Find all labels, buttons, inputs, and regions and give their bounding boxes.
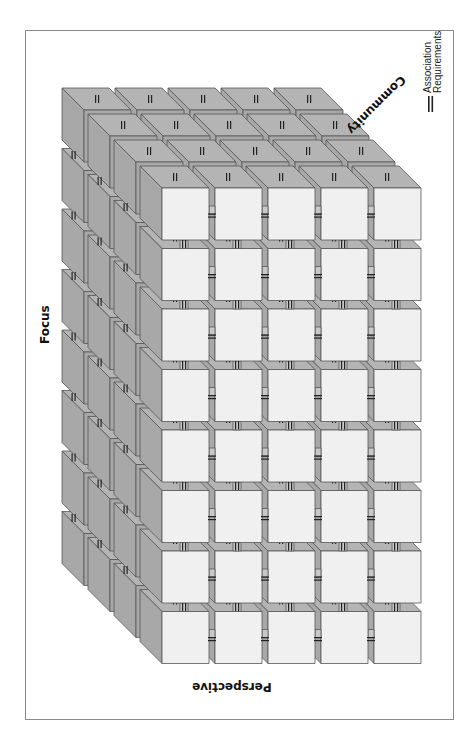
- connector-vertical: [233, 240, 241, 249]
- connector-horizontal: [315, 327, 321, 335]
- cube-front-face: [268, 249, 315, 301]
- cube-front-face: [374, 370, 421, 422]
- connector-vertical: [339, 361, 347, 370]
- connector-horizontal: [368, 630, 374, 638]
- connector-horizontal: [262, 206, 268, 214]
- connector-vertical: [339, 603, 347, 612]
- connector-vertical: [233, 361, 241, 370]
- cube-front-face: [162, 430, 209, 482]
- connector-vertical: [392, 482, 400, 491]
- cube-front-face: [268, 491, 315, 543]
- cube-front-face: [162, 188, 209, 240]
- connector-horizontal: [209, 448, 215, 456]
- axis-label-focus: Focus: [38, 305, 52, 344]
- connector-horizontal: [368, 388, 374, 396]
- connector-horizontal: [315, 206, 321, 214]
- cube-front-face: [162, 309, 209, 361]
- cube-front-face: [321, 612, 368, 664]
- cube-front-face: [215, 309, 262, 361]
- connector-horizontal: [262, 448, 268, 456]
- connector-horizontal: [315, 448, 321, 456]
- cube-front-face: [268, 309, 315, 361]
- cube-front-face: [268, 188, 315, 240]
- connector-horizontal: [209, 267, 215, 275]
- cube-front-face: [215, 612, 262, 664]
- connector-horizontal: [368, 267, 374, 275]
- connector-horizontal: [315, 630, 321, 638]
- connector-vertical: [233, 543, 241, 552]
- cube-front-face: [215, 491, 262, 543]
- cube-front-face: [321, 491, 368, 543]
- axis-label-perspective: Perspective: [192, 680, 272, 694]
- connector-horizontal: [262, 267, 268, 275]
- connector-horizontal: [209, 569, 215, 577]
- connector-vertical: [339, 543, 347, 552]
- connector-horizontal: [315, 267, 321, 275]
- connector-horizontal: [368, 448, 374, 456]
- connector-vertical: [180, 422, 188, 431]
- connector-vertical: [392, 361, 400, 370]
- cube-front-face: [268, 370, 315, 422]
- connector-vertical: [286, 240, 294, 249]
- cube-front-face: [268, 612, 315, 664]
- connector-vertical: [286, 603, 294, 612]
- cube-front-face: [215, 370, 262, 422]
- connector-vertical: [180, 301, 188, 310]
- connector-vertical: [180, 240, 188, 249]
- connector-vertical: [180, 361, 188, 370]
- connector-vertical: [339, 422, 347, 431]
- cube-front-face: [215, 430, 262, 482]
- connector-horizontal: [315, 509, 321, 517]
- connector-horizontal: [209, 206, 215, 214]
- cube-front-face: [215, 249, 262, 301]
- connector-horizontal: [262, 388, 268, 396]
- cube-front-face: [321, 430, 368, 482]
- legend-line-2: Requirements: [433, 31, 443, 93]
- connector-vertical: [180, 603, 188, 612]
- connector-vertical: [233, 422, 241, 431]
- cube-front-face: [162, 551, 209, 603]
- connector-vertical: [286, 301, 294, 310]
- connector-vertical: [286, 543, 294, 552]
- cube-front-face: [374, 551, 421, 603]
- connector-vertical: [339, 482, 347, 491]
- connector-horizontal: [315, 388, 321, 396]
- cube-front-face: [321, 370, 368, 422]
- cube-front-face: [321, 188, 368, 240]
- connector-horizontal: [262, 569, 268, 577]
- cube-front-face: [374, 249, 421, 301]
- connector-vertical: [286, 361, 294, 370]
- cube-front-face: [374, 491, 421, 543]
- connector-vertical: [392, 543, 400, 552]
- connector-horizontal: [209, 327, 215, 335]
- connector-horizontal: [368, 569, 374, 577]
- connector-vertical: [392, 603, 400, 612]
- connector-horizontal: [368, 206, 374, 214]
- cube-front-face: [268, 551, 315, 603]
- connector-horizontal: [262, 630, 268, 638]
- connector-horizontal: [262, 327, 268, 335]
- connector-vertical: [180, 482, 188, 491]
- connector-vertical: [392, 422, 400, 431]
- connector-horizontal: [262, 509, 268, 517]
- connector-horizontal: [209, 388, 215, 396]
- cube-front-face: [321, 249, 368, 301]
- cube-front-face: [215, 551, 262, 603]
- connector-vertical: [180, 543, 188, 552]
- cube-front-face: [321, 309, 368, 361]
- connector-vertical: [392, 240, 400, 249]
- connector-horizontal: [368, 327, 374, 335]
- connector-vertical: [339, 240, 347, 249]
- legend-label: Association Requirements: [423, 31, 443, 93]
- connector-vertical: [233, 482, 241, 491]
- connector-vertical: [233, 603, 241, 612]
- connector-horizontal: [368, 509, 374, 517]
- cube-front-face: [162, 249, 209, 301]
- association-requirements-icon: [426, 96, 436, 112]
- connector-horizontal: [315, 569, 321, 577]
- cube-front-face: [321, 551, 368, 603]
- cube-front-face: [162, 491, 209, 543]
- cube-front-face: [215, 188, 262, 240]
- connector-vertical: [233, 301, 241, 310]
- connector-horizontal: [209, 509, 215, 517]
